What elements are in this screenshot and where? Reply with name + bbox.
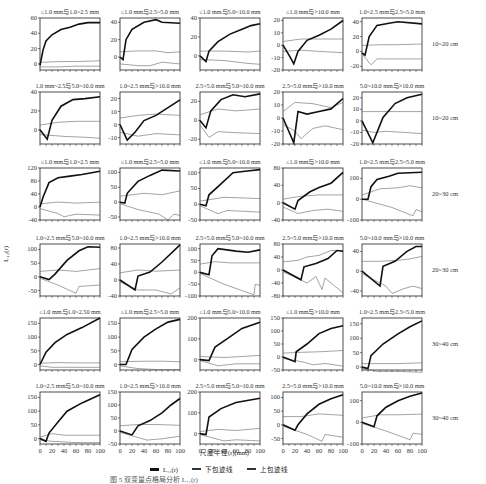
- y-tick-label: 100: [349, 397, 359, 404]
- lower-envelope-line: [120, 132, 180, 136]
- lower-envelope-line: [40, 366, 100, 367]
- panel: ≤1.0 mm与2.5~5.0 mm050100150: [107, 308, 180, 372]
- panel-frame: [362, 244, 422, 296]
- y-tick-label: 0: [114, 427, 117, 434]
- y-tick-label: 50: [274, 340, 281, 347]
- y-tick-label: 10: [274, 29, 281, 36]
- l12-line: [120, 20, 180, 60]
- panel-title: ≤1.0 mm与2.5~5.0 mm: [121, 308, 179, 316]
- lower-envelope-line: [362, 199, 422, 216]
- panel: ≤1.0 mm与1.0~2.5 mm0204060: [31, 8, 101, 72]
- y-tick-label: -20: [271, 66, 280, 73]
- l12-line: [40, 395, 100, 442]
- l12-line: [120, 245, 180, 290]
- l12-line: [283, 326, 343, 362]
- lower-envelope-line: [283, 50, 343, 53]
- x-axis-label: 尺度半径(r)(mm): [200, 447, 249, 457]
- y-tick-label: -50: [108, 213, 117, 220]
- y-tick-label: 100: [187, 169, 197, 176]
- upper-envelope-line: [120, 425, 180, 426]
- panel-title: ≤1.0 mm与5.0~10.0 mm: [199, 158, 261, 166]
- y-tick-label: 0: [34, 203, 37, 210]
- l12-line: [362, 22, 422, 55]
- panel: 1.0~2.5 mm与5.0~10.0 mm050100150020406080…: [27, 382, 105, 454]
- y-tick-label: 40: [274, 253, 281, 260]
- y-tick-label: 0: [277, 114, 280, 121]
- panel-frame: [40, 392, 100, 444]
- panel-title: 2.5~5.0 mm与>10.0 mm: [282, 382, 344, 390]
- y-tick-label: 50: [191, 257, 198, 264]
- panel-title: 2.5~5.0 mm与5.0~10.0 mm: [195, 382, 264, 390]
- l12-line: [200, 170, 260, 206]
- panel-frame: [40, 92, 100, 144]
- panel-frame: [283, 392, 343, 444]
- l12-line: [40, 23, 100, 66]
- upper-envelope-line: [283, 39, 343, 42]
- panel: 2.5~5.0 mm与>10.0 mm-50050100020406080100: [270, 382, 348, 454]
- y-tick-label: -40: [271, 216, 280, 223]
- panel: 2.5~5.0 mm与5.0~10.0 mm-100-50050100: [185, 234, 265, 299]
- upper-envelope-line: [40, 121, 100, 125]
- x-tick-label: 80: [165, 447, 172, 454]
- y-tick-label: 50: [31, 421, 38, 428]
- panel-title: ≤1.0 mm与5.0~10.0 mm: [199, 8, 261, 16]
- y-tick-label: 20: [274, 16, 281, 23]
- panel-frame: [362, 92, 422, 144]
- y-tick-label: 100: [349, 334, 359, 341]
- y-tick-label: 0: [114, 121, 117, 128]
- l12-line: [283, 172, 343, 209]
- y-tick-label: 10: [274, 101, 281, 108]
- l12-line: [283, 99, 343, 143]
- panel-title: 1.0 mm~2.5与5.0~10.0 mm: [35, 82, 104, 90]
- x-tick-label: 0: [38, 447, 41, 454]
- x-tick-label: 20: [49, 447, 56, 454]
- y-tick-label: 80: [274, 164, 281, 171]
- y-tick-label: 50: [31, 347, 38, 354]
- panel-title: 1.0~2.5 mm与5.0~10.0 mm: [35, 234, 104, 242]
- y-tick-label: 100: [270, 393, 280, 400]
- lower-envelope-line: [40, 440, 100, 443]
- panel: 1.0~2.5 mm与>10.0 mm-1001020: [108, 82, 181, 146]
- y-tick-label: 80: [31, 177, 38, 184]
- y-tick-label: 0: [356, 267, 359, 274]
- figure-caption: 图 5 双变量点格局分析 L₁₂(r): [110, 474, 198, 484]
- y-tick-label: 0: [277, 266, 280, 273]
- upper-envelope-line: [283, 351, 343, 354]
- panel-title: 1.0~2.5 mm与2.5~5.0 mm: [359, 308, 425, 316]
- y-tick-label: 100: [187, 409, 197, 416]
- panel: ≤1.0 mm与5.0~10.0 mm02040: [191, 8, 261, 72]
- legend-swatch-thick: [150, 468, 159, 471]
- l12-line: [120, 399, 180, 435]
- y-tick-label: 60: [31, 14, 38, 21]
- depth-label: 20~30 cm: [432, 266, 458, 273]
- panel-frame: [283, 318, 343, 370]
- y-tick-label: 0: [34, 60, 37, 67]
- panel-title: ≤1.0 mm与1.0~2.5 mm: [41, 158, 99, 166]
- panel: 1.0~2.5 mm与5.0~10.0 mm-50050100: [27, 234, 104, 298]
- y-tick-label: 20: [111, 95, 118, 102]
- y-tick-label: -40: [28, 216, 37, 223]
- lower-envelope-line: [40, 209, 100, 217]
- y-tick-label: 150: [349, 320, 359, 327]
- y-tick-label: 40: [353, 18, 360, 25]
- y-tick-label: 50: [31, 259, 38, 266]
- y-tick-label: 0: [34, 361, 37, 368]
- y-tick-label: 20: [31, 107, 38, 114]
- panel-title: 1.0~2.5 mm与2.5~5.0 mm: [359, 8, 425, 16]
- upper-envelope-line: [283, 195, 343, 199]
- y-tick-label: -50: [108, 440, 117, 447]
- panel-title: ≤1.0 mm与2.5~5.0 mm: [121, 158, 179, 166]
- panel-title: ≤1.0 mm与>10.0 mm: [286, 308, 340, 316]
- depth-label: 30~40 cm: [432, 340, 458, 347]
- x-tick-label: 20: [129, 447, 136, 454]
- lower-envelope-line: [120, 366, 180, 370]
- y-tick-label: -10: [108, 134, 117, 141]
- legend-item-lower: 下包迹线: [192, 464, 233, 474]
- panel-title: 1.0~2.5 mm与>10.0 mm: [119, 382, 181, 390]
- y-tick-label: -20: [271, 140, 280, 147]
- panel-title: 1.0~2.5 mm与5.0~10.0 mm: [35, 382, 104, 390]
- l12-line: [120, 319, 180, 364]
- y-axis-label: L₁₂(r): [2, 246, 10, 262]
- y-tick-label: 40: [191, 14, 198, 21]
